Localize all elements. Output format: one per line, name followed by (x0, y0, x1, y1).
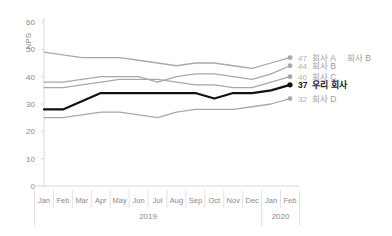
nps-line-chart: 0102030405060 JanFebMarAprMayJunJulAugSe… (0, 0, 392, 236)
x-group-label-0: 2019 (139, 212, 157, 221)
x-tick-label-0: Jan (38, 196, 50, 205)
y-axis-title: NPS (24, 33, 33, 49)
x-tick-label-11: Dec (245, 196, 259, 205)
y-tick-label-30: 30 (26, 100, 35, 109)
extra-label-0: 회사 B (347, 53, 371, 63)
series-end-name-3: 우리 회사 (312, 79, 348, 90)
x-tick-label-13: Feb (284, 196, 297, 205)
y-tick-label-10: 10 (26, 155, 35, 164)
chart-canvas: 0102030405060 JanFebMarAprMayJunJulAugSe… (0, 0, 392, 236)
series-end-dot-2 (288, 74, 293, 79)
x-tick-label-5: Jun (133, 196, 145, 205)
series-end-value-3: 37 (298, 80, 308, 90)
series-end-dot-3 (287, 82, 292, 87)
series-line-0 (44, 52, 290, 68)
y-tick-label-60: 60 (26, 18, 35, 27)
x-tick-label-2: Mar (75, 196, 88, 205)
y-tick-label-40: 40 (26, 73, 35, 82)
series-lines (44, 52, 290, 118)
x-tick-label-9: Oct (208, 196, 221, 205)
x-group-label-1: 2020 (272, 212, 290, 221)
series-line-2 (44, 77, 290, 88)
x-tick-label-10: Nov (227, 196, 241, 205)
series-end-dot-0 (288, 55, 293, 60)
x-tick-label-3: Apr (95, 196, 107, 205)
series-end-name-4: 회사 D (312, 94, 337, 104)
series-end-value-4: 32 (298, 95, 307, 104)
series-end-value-1: 44 (298, 62, 307, 71)
series-end-name-1: 회사 B (312, 61, 336, 71)
y-tick-label-20: 20 (26, 127, 35, 136)
series-line-3 (44, 85, 290, 110)
x-tick-label-6: Jul (153, 196, 163, 205)
series-end-dot-4 (288, 96, 293, 101)
series-end-dot-1 (288, 63, 293, 68)
x-tick-label-8: Sep (189, 196, 202, 205)
x-tick-label-7: Aug (170, 196, 183, 205)
x-tick-label-1: Feb (56, 196, 69, 205)
x-tick-label-4: May (113, 196, 127, 205)
x-tick-label-12: Jan (265, 196, 277, 205)
series-end-labels: 47회사 A44회사 B40회사 C37우리 회사32회사 D회사 B (287, 53, 371, 104)
x-axis: JanFebMarAprMayJunJulAugSepOctNovDecJanF… (35, 186, 300, 226)
